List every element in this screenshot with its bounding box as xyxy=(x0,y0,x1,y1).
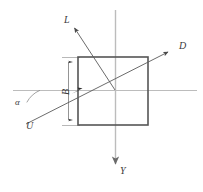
diagram-canvas: L D U Y α B xyxy=(0,0,203,192)
label-ray-d: D xyxy=(179,41,186,51)
label-ray-u: U xyxy=(26,121,33,131)
diagram-vector-layer xyxy=(0,0,203,192)
label-ray-l: L xyxy=(64,15,70,25)
label-axis-y: Y xyxy=(120,166,126,176)
ray-l-line xyxy=(75,28,116,90)
label-dimension-b: B xyxy=(61,89,71,95)
label-angle-alpha: α xyxy=(15,98,20,107)
angle-alpha-arc xyxy=(27,90,40,102)
